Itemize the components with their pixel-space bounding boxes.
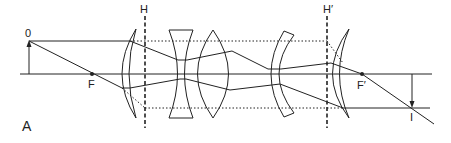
object-arrow (27, 40, 32, 74)
image-label: I (410, 111, 413, 123)
optical-ray-diagram: 0 F H H′ F′ I A (0, 0, 451, 143)
h-prime-label: H′ (323, 3, 333, 15)
front-focal-point (90, 72, 94, 76)
rear-focal-point (360, 72, 364, 76)
h-label: H (140, 3, 148, 15)
panel-label: A (22, 118, 32, 134)
front-focal-label: F (88, 78, 95, 90)
rear-focal-label: F′ (357, 79, 366, 91)
object-label: 0 (25, 27, 31, 39)
image-arrow (410, 74, 415, 108)
